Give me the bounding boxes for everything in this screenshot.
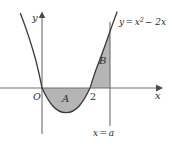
math-figure: y x O 2 A B y=x2− 2x x=a — [0, 0, 169, 148]
x-tick-label-2: 2 — [90, 91, 96, 102]
figure-canvas: y x O 2 A B y=x2− 2x x=a — [0, 0, 169, 148]
region-a-label: A — [61, 93, 69, 104]
curve-eq-equals: = — [126, 17, 134, 27]
y-axis-label: y — [31, 12, 38, 23]
region-b-label: B — [98, 55, 106, 66]
x-axis-label: x — [155, 90, 161, 101]
vline-eq-equals: = — [100, 128, 108, 138]
origin-label: O — [33, 91, 41, 102]
vline-eq-rhs: a — [109, 128, 114, 138]
curve-eq-rest: − 2x — [145, 17, 166, 27]
vertical-line-equation-label: x=a — [93, 128, 114, 138]
vline-eq-lhs: x — [93, 128, 98, 138]
curve-equation-label: y=x2− 2x — [118, 16, 166, 28]
curve-eq-exponent: 2 — [139, 16, 144, 24]
y-axis-arrowhead — [39, 12, 46, 19]
curve-eq-lhs: y — [118, 17, 125, 27]
